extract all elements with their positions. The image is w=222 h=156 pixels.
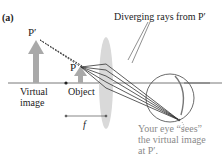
virtual-ray-extensions <box>40 40 84 68</box>
eye-caption-line-3: at P′. <box>138 146 158 156</box>
eye-caption-line-1: Your eye “sees” <box>138 124 202 134</box>
p-label: P <box>70 62 76 72</box>
focal-point <box>64 81 67 84</box>
object-label: Object <box>68 87 95 97</box>
panel-label: (a) <box>2 13 14 23</box>
virtual-image-label-2: image <box>20 98 44 108</box>
focal-length-label: f <box>83 120 86 130</box>
virtual-image-arrow <box>28 40 44 83</box>
p-prime-label: P′ <box>28 27 37 37</box>
eye-caption-line-2: the virtual image <box>138 135 206 145</box>
callout-leader <box>128 22 150 63</box>
diverging-rays <box>81 64 179 120</box>
diverging-rays-label: Diverging rays from P′ <box>114 12 206 22</box>
focal-length-marker <box>65 115 107 117</box>
virtual-image-label-1: Virtual <box>20 87 48 97</box>
